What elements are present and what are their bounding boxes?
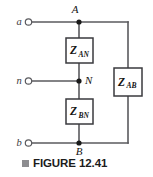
node-dot-n: [76, 78, 81, 83]
terminal-label-b: b: [16, 137, 21, 148]
terminal-label-a: a: [16, 16, 21, 27]
impedance-subscript-zan: AN: [78, 50, 90, 59]
impedance-symbol-zbn: Z: [69, 105, 77, 117]
circuit-diagram: Z AN Z BN Z AB A N B a n b: [0, 0, 153, 177]
figure-caption: FIGURE 12.41: [22, 157, 107, 169]
figure-caption-text: FIGURE 12.41: [33, 157, 107, 169]
figure-container: Z AN Z BN Z AB A N B a n b FIGURE 12.41: [0, 0, 153, 177]
node-label-a: A: [71, 3, 79, 15]
terminal-circle-a[interactable]: [25, 19, 31, 25]
impedance-symbol-zab: Z: [117, 76, 125, 88]
terminal-circle-n[interactable]: [25, 78, 31, 84]
node-label-b: B: [76, 145, 83, 157]
square-marker-icon: [22, 160, 29, 167]
node-dot-a: [76, 19, 81, 24]
impedance-symbol-zan: Z: [69, 44, 77, 56]
terminal-label-n: n: [16, 75, 21, 86]
terminal-circle-b[interactable]: [25, 140, 31, 146]
impedance-subscript-zbn: BN: [78, 111, 90, 120]
impedance-subscript-zab: AB: [126, 81, 137, 90]
node-label-n: N: [84, 74, 93, 86]
